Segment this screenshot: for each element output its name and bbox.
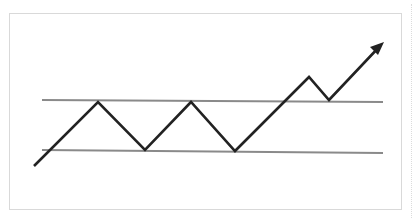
support-line	[42, 150, 383, 153]
price-path	[34, 46, 380, 166]
resistance-line	[42, 100, 383, 102]
breakout-diagram	[0, 0, 415, 222]
